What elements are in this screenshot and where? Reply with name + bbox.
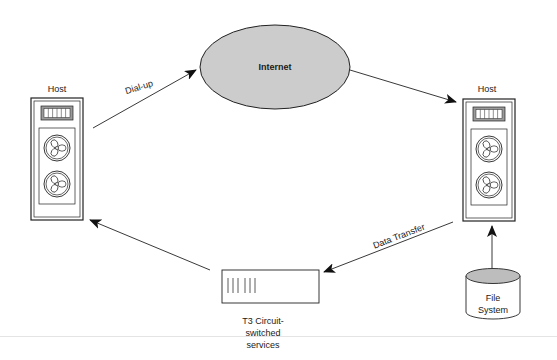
edge-internet-to-host [350, 70, 456, 102]
host-right-label: Host [478, 84, 497, 94]
host-left-label: Host [48, 84, 67, 94]
internet-node: Internet [200, 25, 350, 109]
file-system-node: File System [466, 269, 520, 320]
arrow-icon [90, 220, 210, 270]
server-icon [463, 99, 515, 221]
host-left-node: Host [31, 84, 83, 220]
edge-t3-to-host [90, 220, 210, 270]
dialup-label: Dial-up [124, 78, 154, 96]
arrow-icon [350, 70, 456, 102]
arrow-icon [93, 70, 196, 128]
edge-dialup: Dial-up [93, 70, 196, 128]
edge-data-transfer: Data Transfer [324, 222, 453, 272]
data-transfer-label: Data Transfer [372, 222, 426, 251]
server-icon [31, 98, 83, 220]
rack-unit-icon [222, 270, 319, 303]
internet-label: Internet [258, 62, 291, 72]
arrow-icon [324, 222, 453, 272]
t3-label-line3: services [246, 340, 280, 350]
host-right-node: Host [463, 84, 515, 221]
t3-label-line1: T3 Circuit- [242, 316, 284, 326]
file-system-label-line1: File [486, 293, 501, 303]
divider [0, 336, 557, 337]
network-diagram: Internet Host Host T3 Circuit- switched … [0, 0, 557, 360]
file-system-label-line2: System [478, 305, 508, 315]
t3-node: T3 Circuit- switched services [222, 270, 319, 350]
database-icon [466, 269, 520, 284]
